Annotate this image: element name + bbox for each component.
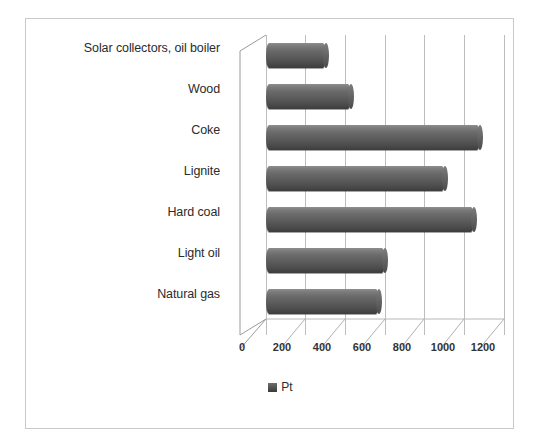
xtick-0: 0	[239, 341, 245, 353]
gridline-1200	[504, 35, 505, 335]
bar-lignite[interactable]	[266, 166, 445, 191]
bar-hard-coal[interactable]	[266, 207, 474, 232]
xtick-400: 400	[313, 341, 331, 353]
bar-light-oil[interactable]	[266, 248, 385, 273]
value-axis: 0 200 400 600 800 1000 1200	[206, 341, 506, 365]
xtick-800: 800	[393, 341, 411, 353]
legend-label: Pt	[281, 380, 292, 394]
chart-legend: Pt	[26, 377, 515, 395]
category-label-light-oil: Light oil	[25, 246, 220, 260]
category-label-coke: Coke	[25, 123, 220, 137]
legend-entry-pt[interactable]: Pt	[248, 377, 292, 395]
chart-plot-wrapper: Solar collectors, oil boiler Wood Coke L…	[26, 19, 513, 428]
xtick-1200: 1200	[471, 341, 495, 353]
category-label-natural-gas: Natural gas	[25, 287, 220, 301]
category-axis: Solar collectors, oil boiler Wood Coke L…	[26, 35, 226, 335]
legend-swatch-icon	[268, 383, 277, 392]
xtick-600: 600	[353, 341, 371, 353]
xtick-200: 200	[273, 341, 291, 353]
category-label-wood: Wood	[25, 82, 220, 96]
category-label-lignite: Lignite	[25, 164, 220, 178]
bar-coke[interactable]	[266, 125, 480, 150]
chart-bars	[232, 35, 477, 335]
chart-frame: Solar collectors, oil boiler Wood Coke L…	[25, 18, 514, 429]
category-label-solar-collectors-oil-boiler: Solar collectors, oil boiler	[25, 41, 220, 55]
category-label-hard-coal: Hard coal	[25, 205, 220, 219]
xtick-1000: 1000	[431, 341, 455, 353]
bar-wood[interactable]	[266, 84, 351, 109]
bar-solar-collectors-oil-boiler[interactable]	[266, 43, 326, 68]
bar-natural-gas[interactable]	[266, 289, 379, 314]
